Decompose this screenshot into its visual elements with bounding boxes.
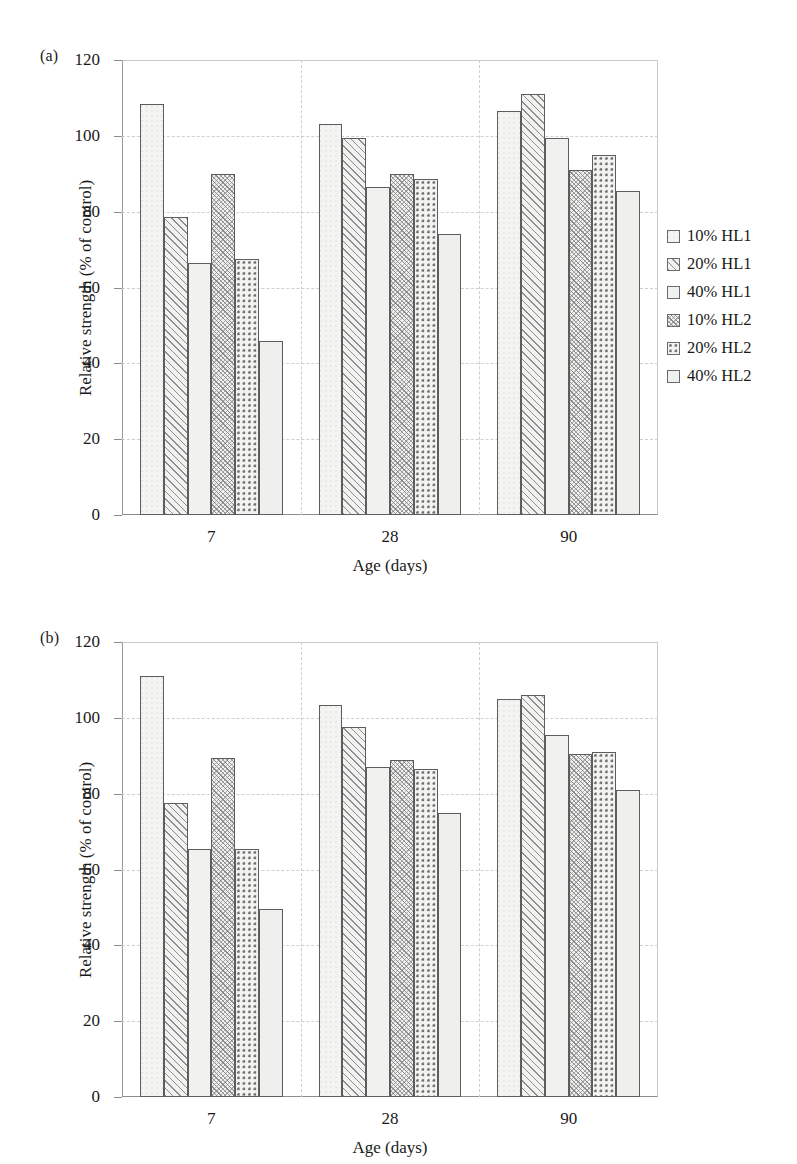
bar <box>235 849 259 1097</box>
bar <box>616 790 640 1097</box>
bar <box>497 111 521 515</box>
legend-label: 20% HL1 <box>687 254 752 274</box>
y-tick-mark <box>114 794 122 795</box>
y-tick-mark <box>114 136 122 137</box>
bar <box>616 191 640 515</box>
y-tick-label: 0 <box>92 1087 101 1107</box>
category-separator <box>479 60 480 515</box>
bar <box>342 727 366 1097</box>
bar <box>390 760 414 1097</box>
y-tick-label: 0 <box>92 505 101 525</box>
y-tick-mark <box>114 515 122 516</box>
bar <box>211 174 235 515</box>
legend-label: 20% HL2 <box>687 338 752 358</box>
y-tick-mark <box>114 1021 122 1022</box>
plot-area-a <box>122 60 658 515</box>
light-grey-swatch <box>667 370 680 383</box>
bar <box>319 124 343 515</box>
legend-label: 40% HL2 <box>687 366 752 386</box>
x-axis-title-b: Age (days) <box>122 1138 658 1158</box>
cross-weave-swatch <box>667 314 680 327</box>
bar <box>188 849 212 1097</box>
bar <box>545 735 569 1097</box>
bar <box>164 217 188 515</box>
bar <box>235 259 259 515</box>
legend-label: 10% HL2 <box>687 310 752 330</box>
x-tick-label: 90 <box>560 1109 577 1129</box>
dotted-grid-swatch <box>667 342 680 355</box>
y-tick-mark <box>114 288 122 289</box>
y-tick-mark <box>114 642 122 643</box>
y-tick-mark <box>114 60 122 61</box>
bar <box>188 263 212 515</box>
bar <box>438 234 462 515</box>
y-tick-label: 80 <box>83 202 100 222</box>
x-tick-label: 7 <box>207 527 216 547</box>
legend-item: 20% HL1 <box>667 250 752 278</box>
bar <box>521 94 545 515</box>
bar <box>211 758 235 1097</box>
x-tick-label: 28 <box>382 527 399 547</box>
legend-label: 10% HL1 <box>687 226 752 246</box>
y-tick-mark <box>114 363 122 364</box>
y-tick-label: 120 <box>75 50 101 70</box>
bar <box>164 803 188 1097</box>
y-tick-label: 20 <box>83 1011 100 1031</box>
legend-a: 10% HL120% HL140% HL110% HL220% HL240% H… <box>667 222 752 390</box>
gridline <box>122 136 658 137</box>
diagonal-hatch-swatch <box>667 258 680 271</box>
legend-item: 40% HL1 <box>667 278 752 306</box>
legend-item: 20% HL2 <box>667 334 752 362</box>
chart-panel-a: (a) Relative strength (% of control) 020… <box>0 0 797 582</box>
bar <box>319 705 343 1097</box>
bar <box>390 174 414 515</box>
bar <box>342 138 366 515</box>
y-tick-label: 80 <box>83 784 100 804</box>
bar <box>140 676 164 1097</box>
category-separator <box>479 642 480 1097</box>
plot-area-b <box>122 642 658 1097</box>
x-tick-label: 7 <box>207 1109 216 1129</box>
y-axis-ticks-b: 020406080100120 <box>0 582 122 1164</box>
legend-label: 40% HL1 <box>687 282 752 302</box>
y-tick-mark <box>114 870 122 871</box>
legend-item: 10% HL2 <box>667 306 752 334</box>
y-tick-label: 60 <box>83 860 100 880</box>
bar <box>545 138 569 515</box>
y-tick-mark <box>114 945 122 946</box>
y-tick-label: 40 <box>83 353 100 373</box>
legend-item: 10% HL1 <box>667 222 752 250</box>
legend-item: 40% HL2 <box>667 362 752 390</box>
bar <box>366 187 390 515</box>
bar <box>366 767 390 1097</box>
y-tick-label: 40 <box>83 935 100 955</box>
bar <box>414 769 438 1097</box>
bar <box>438 813 462 1097</box>
bar <box>140 104 164 515</box>
category-separator <box>301 60 302 515</box>
chart-panel-b: (b) Relative strength (% of control) 020… <box>0 582 797 1164</box>
gridline <box>122 718 658 719</box>
category-separator <box>301 642 302 1097</box>
bar <box>497 699 521 1097</box>
y-tick-label: 100 <box>75 708 101 728</box>
y-tick-mark <box>114 439 122 440</box>
blank-square-swatch <box>667 286 680 299</box>
y-tick-mark <box>114 718 122 719</box>
blank-square-swatch <box>667 230 680 243</box>
y-tick-label: 120 <box>75 632 101 652</box>
y-tick-mark <box>114 212 122 213</box>
bar <box>521 695 545 1097</box>
bar <box>592 155 616 515</box>
y-tick-label: 60 <box>83 278 100 298</box>
bar <box>569 754 593 1097</box>
bar <box>414 179 438 515</box>
bar <box>259 341 283 515</box>
y-tick-mark <box>114 1097 122 1098</box>
bar <box>569 170 593 515</box>
x-tick-label: 90 <box>560 527 577 547</box>
y-axis-ticks-a: 020406080100120 <box>0 0 122 582</box>
y-tick-label: 20 <box>83 429 100 449</box>
bar <box>259 909 283 1097</box>
x-tick-label: 28 <box>382 1109 399 1129</box>
